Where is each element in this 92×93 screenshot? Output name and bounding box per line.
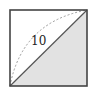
geometry-diagram: 10 — [0, 0, 92, 93]
diagonal-length-label: 10 — [31, 34, 46, 48]
